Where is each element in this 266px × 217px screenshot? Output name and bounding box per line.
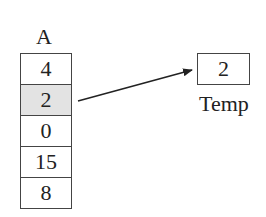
temp-label: Temp xyxy=(199,93,249,115)
temp-variable-box: 2 xyxy=(197,53,250,85)
